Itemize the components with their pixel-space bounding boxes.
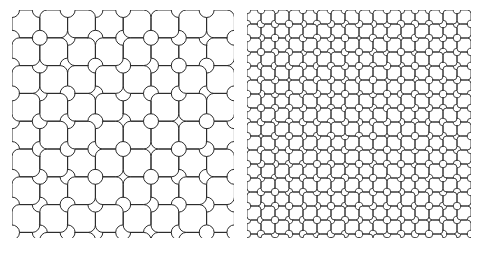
tile [179, 177, 207, 205]
tile [415, 108, 429, 122]
tile [331, 80, 345, 94]
tile [345, 136, 359, 150]
tile [289, 38, 303, 52]
tile [303, 38, 317, 52]
tile [457, 192, 471, 206]
tile [331, 192, 345, 206]
tile [457, 108, 471, 122]
tile [359, 10, 373, 24]
tile [387, 178, 401, 192]
tile [373, 150, 387, 164]
tile [275, 108, 289, 122]
tile [275, 94, 289, 108]
tile [345, 94, 359, 108]
tile [359, 80, 373, 94]
tile [359, 108, 373, 122]
tile [387, 206, 401, 220]
tile [401, 150, 415, 164]
tile [331, 136, 345, 150]
tile [345, 10, 359, 24]
tile [387, 234, 401, 238]
tile [373, 122, 387, 136]
tile [95, 205, 123, 233]
tile [179, 38, 207, 66]
tile [373, 24, 387, 38]
tile [457, 234, 471, 238]
tile [207, 93, 234, 121]
tile [151, 177, 179, 205]
tile [331, 164, 345, 178]
tile [331, 52, 345, 66]
tile [317, 220, 331, 234]
tile [317, 206, 331, 220]
tile [247, 206, 261, 220]
tile [179, 121, 207, 149]
tile [387, 108, 401, 122]
tile [415, 206, 429, 220]
tile [317, 234, 331, 238]
tile [387, 52, 401, 66]
tile [443, 24, 457, 38]
tile [429, 178, 443, 192]
tile [275, 220, 289, 234]
tile [415, 94, 429, 108]
tile [443, 136, 457, 150]
tile [373, 178, 387, 192]
tile [12, 66, 40, 94]
tile [275, 38, 289, 52]
tile [317, 80, 331, 94]
tile [401, 108, 415, 122]
tile [443, 52, 457, 66]
tile [317, 122, 331, 136]
tile [261, 38, 275, 52]
tile [331, 94, 345, 108]
tile [443, 234, 457, 238]
tile [429, 192, 443, 206]
tile [275, 10, 289, 24]
tile [429, 122, 443, 136]
tile [261, 94, 275, 108]
tile [303, 164, 317, 178]
tile [207, 232, 234, 238]
tiling-svg [247, 10, 471, 238]
tile [247, 178, 261, 192]
tile [275, 52, 289, 66]
tile [40, 10, 68, 38]
tile [401, 136, 415, 150]
tile [303, 206, 317, 220]
tile [401, 192, 415, 206]
tile [401, 24, 415, 38]
tile [261, 206, 275, 220]
tile [207, 205, 234, 233]
tile [387, 24, 401, 38]
tile [261, 164, 275, 178]
tile [429, 164, 443, 178]
tile [179, 93, 207, 121]
tile [415, 220, 429, 234]
tile [387, 66, 401, 80]
tile [151, 66, 179, 94]
tile [207, 66, 234, 94]
tile [289, 108, 303, 122]
tile [429, 10, 443, 24]
tile [40, 149, 68, 177]
tile [415, 192, 429, 206]
tile [68, 66, 96, 94]
tile [261, 234, 275, 238]
tile [457, 220, 471, 234]
tile [359, 178, 373, 192]
tile [429, 80, 443, 94]
tile [95, 10, 123, 38]
tile [68, 121, 96, 149]
tile [359, 150, 373, 164]
tile [207, 149, 234, 177]
tile [429, 220, 443, 234]
tile [443, 10, 457, 24]
tile [359, 52, 373, 66]
tile [345, 178, 359, 192]
tile [457, 150, 471, 164]
tile-layer [247, 10, 471, 238]
tile [289, 66, 303, 80]
tile [457, 178, 471, 192]
tile [317, 52, 331, 66]
